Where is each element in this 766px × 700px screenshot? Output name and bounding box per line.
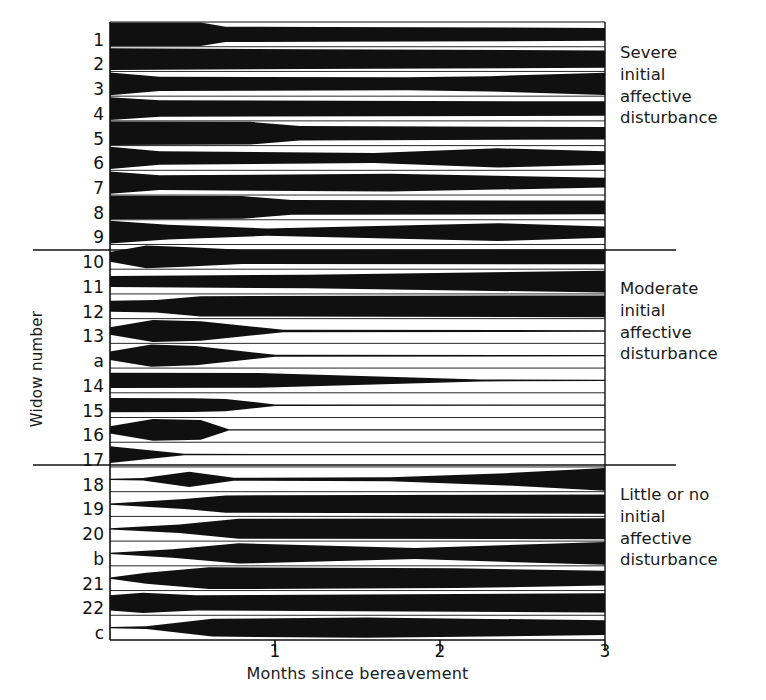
widow-band-11 xyxy=(110,271,605,293)
widow-band-4 xyxy=(110,97,605,120)
widow-band-18 xyxy=(110,468,605,491)
widow-band-2 xyxy=(110,48,605,70)
widow-band-14 xyxy=(110,373,605,388)
widow-band-b xyxy=(110,542,605,565)
widow-band-a xyxy=(110,345,605,367)
widow-band-5 xyxy=(110,122,605,145)
widow-band-8 xyxy=(110,196,605,219)
widow-band-c xyxy=(110,618,605,638)
widow-band-13 xyxy=(110,320,605,342)
widow-band-6 xyxy=(110,147,605,169)
widow-band-9 xyxy=(110,221,605,244)
x-tick-label-2: 2 xyxy=(425,641,455,661)
widow-band-15 xyxy=(110,398,605,412)
group-annotation-moderate: Moderate initial affective disturbance xyxy=(620,278,718,365)
widow-band-16 xyxy=(110,419,605,441)
figure-root: Widow number 12345678910111213a141516171… xyxy=(0,0,766,700)
widow-band-3 xyxy=(110,72,605,95)
x-axis-title: Months since bereavement xyxy=(110,664,605,683)
widow-band-12 xyxy=(110,295,605,317)
group-annotation-severe: Severe initial affective disturbance xyxy=(620,42,718,129)
widow-band-19 xyxy=(110,494,605,513)
widow-band-20 xyxy=(110,518,605,539)
widow-band-22 xyxy=(110,593,605,613)
widow-band-7 xyxy=(110,172,605,194)
widow-band-17 xyxy=(110,446,605,463)
group-annotation-little-or-none: Little or no initial affective disturban… xyxy=(620,484,718,571)
widow-band-1 xyxy=(110,23,605,46)
widow-band-10 xyxy=(110,245,605,268)
x-tick-label-3: 3 xyxy=(590,641,620,661)
widow-band-21 xyxy=(110,567,605,589)
x-tick-label-1: 1 xyxy=(260,641,290,661)
